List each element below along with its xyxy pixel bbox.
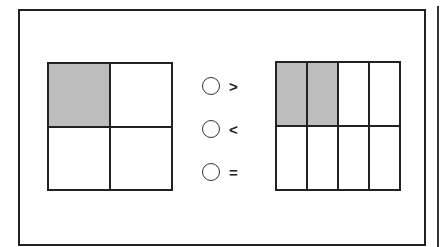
unshaded-cell bbox=[338, 62, 369, 126]
unshaded-cell bbox=[307, 126, 338, 190]
unshaded-cell bbox=[110, 63, 172, 127]
option-less-than[interactable]: < bbox=[202, 120, 238, 138]
unshaded-cell bbox=[369, 62, 400, 126]
greater-than-symbol: > bbox=[229, 79, 238, 94]
unshaded-cell bbox=[369, 126, 400, 190]
radio-button[interactable] bbox=[202, 163, 220, 181]
option-equal[interactable]: = bbox=[202, 163, 238, 181]
shaded-cell bbox=[276, 62, 307, 126]
unshaded-cell bbox=[276, 126, 307, 190]
unshaded-cell bbox=[48, 127, 110, 191]
equal-symbol: = bbox=[229, 165, 238, 180]
option-greater-than[interactable]: > bbox=[202, 77, 238, 95]
page-edge-divider bbox=[437, 6, 439, 247]
shaded-cell bbox=[307, 62, 338, 126]
less-than-symbol: < bbox=[229, 122, 238, 137]
left-fraction-grid bbox=[47, 62, 173, 191]
right-fraction-grid bbox=[275, 61, 401, 191]
radio-button[interactable] bbox=[202, 120, 220, 138]
unshaded-cell bbox=[338, 126, 369, 190]
shaded-cell bbox=[48, 63, 110, 127]
radio-button[interactable] bbox=[202, 77, 220, 95]
unshaded-cell bbox=[110, 127, 172, 191]
